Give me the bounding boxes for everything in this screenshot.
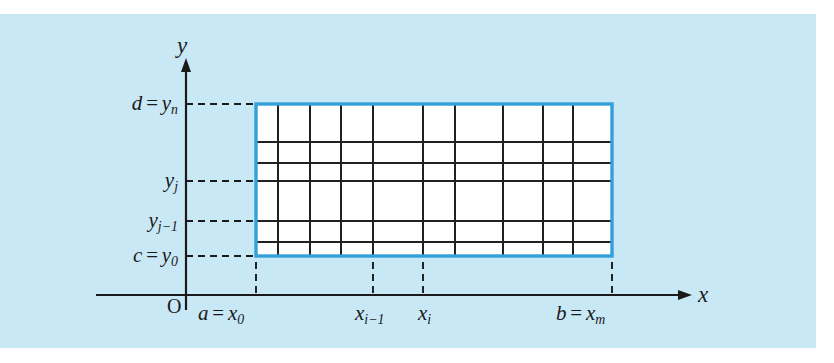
origin-label: O — [167, 296, 181, 316]
y-0-equals: = — [142, 243, 161, 267]
y-tick-label-y-j: yj — [0, 170, 178, 191]
x-0-prefix: a — [198, 301, 209, 325]
x-tick-label-x-i-minus-1: xi−1 — [355, 303, 384, 324]
x-tick-label-b-equals-x-m: b=xm — [556, 303, 605, 324]
x-im1-base: x — [355, 301, 364, 325]
y-j-base: y — [165, 168, 174, 192]
x-axis-label: x — [698, 283, 708, 306]
x-m-prefix: b — [556, 301, 567, 325]
y-jm1-subscript: j−1 — [158, 219, 178, 234]
x-m-subscript: m — [595, 312, 605, 327]
x-tick-label-x-i: xi — [418, 303, 431, 324]
x-m-equals: = — [567, 301, 586, 325]
y-jm1-base: y — [149, 208, 158, 232]
y-leader-lines — [186, 104, 262, 256]
x-i-subscript: i — [427, 312, 431, 327]
x-axis-arrowhead — [678, 290, 692, 300]
y-axis-arrowhead — [181, 58, 191, 72]
y-n-base: y — [162, 91, 171, 115]
y-tick-label-c-equals-y-0: c=y0 — [0, 245, 178, 266]
x-tick-label-a-equals-x-0: a=x0 — [198, 303, 244, 324]
y-axis — [181, 58, 191, 310]
y-tick-label-d-equals-y-n: d=yn — [0, 93, 178, 114]
x-0-equals: = — [209, 301, 228, 325]
x-m-base: x — [586, 301, 595, 325]
y-0-subscript: 0 — [171, 254, 178, 269]
x-i-base: x — [418, 301, 427, 325]
x-0-base: x — [228, 301, 237, 325]
y-axis-label: y — [177, 34, 187, 57]
x-0-subscript: 0 — [237, 312, 244, 327]
y-j-subscript: j — [174, 179, 178, 194]
y-n-prefix: d — [132, 91, 143, 115]
y-tick-label-y-j-minus-1: yj−1 — [0, 210, 178, 231]
figure-screenshot: y x O d=yn yj yj−1 c=y0 a=x0 xi−1 xi b=x… — [0, 0, 834, 363]
y-n-subscript: n — [171, 102, 178, 117]
y-0-base: y — [162, 243, 171, 267]
x-im1-subscript: i−1 — [364, 312, 384, 327]
y-n-equals: = — [142, 91, 161, 115]
y-0-prefix: c — [133, 243, 142, 267]
